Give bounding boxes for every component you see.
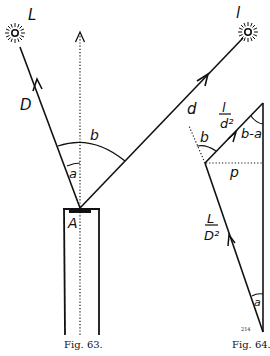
label-b-fig64: b (200, 129, 209, 145)
label-b: b (90, 127, 99, 143)
label-D2-den: D² (204, 228, 219, 243)
label-A: A (67, 215, 78, 231)
label-d: d (187, 100, 197, 118)
label-l: l (236, 4, 241, 22)
caption-fig-63: Fig. 63. (64, 339, 103, 350)
surface-A (69, 209, 91, 213)
ray-d (80, 38, 243, 208)
angle-b-minus-a-arc (251, 116, 263, 124)
label-D: D (20, 96, 32, 114)
label-L: L (28, 6, 36, 24)
label-a-fig64: a (254, 296, 261, 309)
light-source-L-icon (5, 23, 25, 43)
label-l-num: l (222, 100, 226, 115)
label-L-num: L (207, 211, 214, 226)
angle-b-arc (58, 142, 125, 161)
label-a: a (69, 166, 77, 181)
label-p: p (229, 164, 239, 180)
label-d2-den: d² (220, 116, 233, 131)
vector-l-arrow-icon (228, 132, 236, 142)
caption-fig-64: Fig. 64. (232, 339, 270, 350)
ray-D (20, 47, 80, 208)
ray-D-arrow-icon (33, 79, 42, 91)
diagram-canvas: L l D d b a A Fig. 63. (0, 0, 270, 356)
small-mark: 214 (241, 326, 251, 332)
label-b-minus-a: b-a (241, 126, 262, 141)
